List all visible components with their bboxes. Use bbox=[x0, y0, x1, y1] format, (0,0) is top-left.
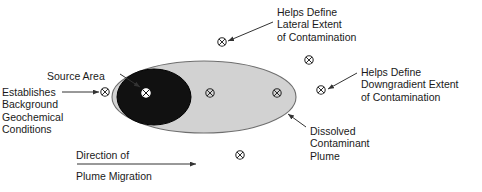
establishes-line-3: Geochemical bbox=[2, 111, 63, 123]
well-downgradient-east-icon bbox=[317, 86, 325, 94]
lateral-line-3: of Contamination bbox=[277, 31, 356, 43]
leader-dissolved bbox=[288, 114, 306, 127]
lateral-line-2: Lateral Extent bbox=[277, 18, 342, 30]
source-area-ellipse bbox=[117, 69, 191, 125]
leader-downgradient bbox=[328, 73, 357, 89]
source-area-text: Source Area bbox=[47, 70, 105, 82]
downgradient-line-3: of Contamination bbox=[361, 91, 440, 103]
label-source-area: Source Area bbox=[47, 70, 105, 82]
label-dissolved-plume: DissolvedContaminantPlume bbox=[310, 125, 370, 162]
label-establishes-background: EstablishesBackgroundGeochemicalConditio… bbox=[2, 86, 63, 136]
dissolved-line-1: Dissolved bbox=[310, 125, 356, 137]
downgradient-line-2: Downgradient Extent bbox=[361, 78, 458, 90]
lateral-line-1: Helps Define bbox=[277, 6, 337, 18]
establishes-line-1: Establishes bbox=[2, 86, 56, 98]
dissolved-line-3: Plume bbox=[310, 150, 340, 162]
well-lateral-south-icon bbox=[236, 151, 244, 159]
well-background-upgradient-icon bbox=[101, 88, 109, 96]
well-source-area-icon bbox=[142, 89, 150, 97]
well-lateral-north-right-icon bbox=[305, 56, 313, 64]
plume-diagram: Source Area EstablishesBackgroundGeochem… bbox=[0, 0, 482, 192]
label-lateral-extent: Helps DefineLateral Extentof Contaminati… bbox=[277, 6, 356, 43]
well-lateral-north-left-icon bbox=[218, 38, 226, 46]
label-direction-of: Direction of bbox=[76, 149, 129, 161]
establishes-line-2: Background bbox=[2, 98, 58, 110]
label-downgradient-extent: Helps DefineDowngradient Extentof Contam… bbox=[361, 66, 458, 103]
establishes-line-4: Conditions bbox=[2, 123, 52, 135]
downgradient-line-1: Helps Define bbox=[361, 66, 421, 78]
label-plume-migration: Plume Migration bbox=[76, 170, 152, 182]
dissolved-line-2: Contaminant bbox=[310, 137, 370, 149]
leader-lateral bbox=[228, 22, 273, 41]
